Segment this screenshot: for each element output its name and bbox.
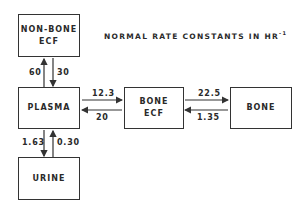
- title-superscript: -1: [279, 30, 287, 36]
- plasma-label: PLASMA: [27, 102, 70, 114]
- urine-label: URINE: [33, 173, 66, 185]
- non-bone-ecf-box: NON-BONE ECF: [18, 14, 80, 57]
- non-bone-ecf-line1: NON-BONE: [21, 24, 78, 36]
- rate-plasma-to-nonbone: 60: [29, 68, 42, 77]
- non-bone-ecf-line2: ECF: [39, 36, 59, 48]
- rate-boneecf-to-bone: 22.5: [198, 89, 221, 98]
- diagram-title: NORMAL RATE CONSTANTS IN HR-1: [104, 30, 287, 41]
- rate-nonbone-to-plasma: 30: [57, 68, 70, 77]
- rate-bone-to-boneecf: 1.35: [197, 113, 220, 122]
- rate-boneecf-to-plasma: 20: [96, 113, 109, 122]
- rate-plasma-to-boneecf: 12.3: [92, 89, 115, 98]
- bone-ecf-line2: ECF: [144, 108, 164, 120]
- bone-box: BONE: [230, 87, 292, 129]
- bone-ecf-box: BONE ECF: [124, 87, 184, 129]
- plasma-box: PLASMA: [18, 87, 80, 129]
- rate-plasma-to-urine: 1.63: [22, 138, 45, 147]
- urine-box: URINE: [18, 157, 80, 200]
- bone-label: BONE: [246, 102, 275, 114]
- rate-urine-to-plasma: 0.30: [57, 138, 80, 147]
- bone-ecf-line1: BONE: [139, 96, 168, 108]
